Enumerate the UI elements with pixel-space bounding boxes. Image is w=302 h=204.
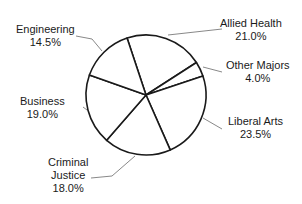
label-other-majors-value: 4.0%	[226, 72, 290, 85]
label-other-majors: Other Majors 4.0%	[226, 59, 290, 85]
label-criminal-justice-name-2: Justice	[48, 169, 88, 182]
label-allied-health: Allied Health 21.0%	[220, 17, 282, 43]
label-allied-health-name: Allied Health	[220, 17, 282, 30]
label-criminal-justice: Criminal Justice 18.0%	[48, 156, 88, 195]
label-allied-health-value: 21.0%	[220, 30, 282, 43]
leader-engineering	[76, 36, 102, 51]
leader-criminal-justice	[91, 156, 135, 178]
label-liberal-arts-value: 23.5%	[228, 128, 283, 141]
leader-other-majors	[203, 67, 222, 72]
label-liberal-arts-name: Liberal Arts	[228, 115, 283, 128]
label-other-majors-name: Other Majors	[226, 59, 290, 72]
pie-slices	[86, 35, 206, 155]
label-criminal-justice-value: 18.0%	[48, 182, 88, 195]
leader-liberal-arts	[203, 118, 222, 129]
label-engineering-name: Engineering	[16, 23, 75, 36]
label-business: Business 19.0%	[20, 95, 65, 121]
label-criminal-justice-name-1: Criminal	[48, 156, 88, 169]
leader-business	[83, 107, 87, 110]
label-liberal-arts: Liberal Arts 23.5%	[228, 115, 283, 141]
label-business-value: 19.0%	[20, 108, 65, 121]
label-engineering: Engineering 14.5%	[16, 23, 75, 49]
leader-allied-health	[168, 29, 222, 35]
label-engineering-value: 14.5%	[16, 36, 75, 49]
label-business-name: Business	[20, 95, 65, 108]
